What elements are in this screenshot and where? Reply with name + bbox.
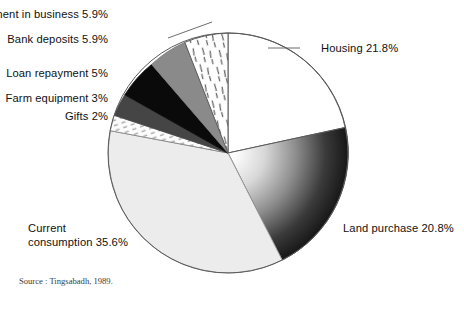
slice-label-farm-equipment: Farm equipment 3% <box>6 92 108 106</box>
slice-label-loan-repayment: Loan repayment 5% <box>6 67 108 81</box>
source-note: Source : Tingsabadh, 1989. <box>19 276 113 286</box>
slice-label-housing: Housing 21.8% <box>321 42 398 56</box>
pie-chart-figure: Housing 21.8% Land purchase 20.8% Curren… <box>0 0 464 310</box>
slice-label-bank-deposits: Bank deposits 5.9% <box>7 33 108 47</box>
slice-label-investment-in-business: Investment in business 5.9% <box>0 8 108 22</box>
slice-label-current-consumption-line1: Current <box>28 222 66 234</box>
slice-label-gifts: Gifts 2% <box>65 110 108 124</box>
slice-label-current-consumption: Currentconsumption 35.6% <box>28 222 128 249</box>
slice-label-land-purchase: Land purchase 20.8% <box>343 222 454 236</box>
slice-label-current-consumption-line2: consumption 35.6% <box>28 236 128 248</box>
